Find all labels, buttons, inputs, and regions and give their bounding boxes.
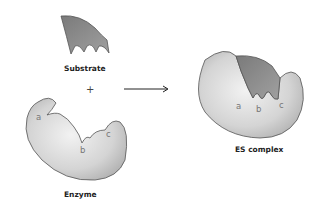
enzyme-site-c: c bbox=[106, 129, 111, 139]
enzyme-shape bbox=[26, 98, 127, 180]
enzyme-site-b: b bbox=[80, 145, 85, 155]
substrate-shape bbox=[61, 16, 109, 54]
es-site-b: b bbox=[256, 104, 261, 114]
diagram-canvas bbox=[0, 0, 320, 206]
plus-sign: + bbox=[86, 84, 94, 95]
enzyme-label: Enzyme bbox=[64, 190, 97, 199]
es-site-c: c bbox=[279, 100, 284, 110]
es-complex-label: ES complex bbox=[235, 145, 283, 154]
substrate-label: Substrate bbox=[64, 64, 106, 73]
enzyme-site-a: a bbox=[36, 112, 41, 122]
es-site-a: a bbox=[236, 101, 241, 111]
